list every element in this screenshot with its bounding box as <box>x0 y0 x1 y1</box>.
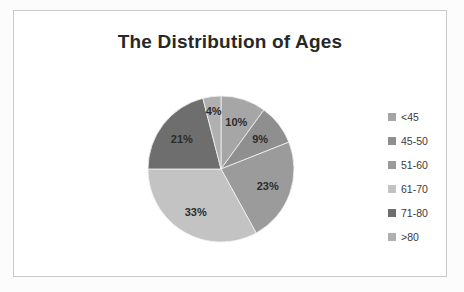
pie-chart-svg: 10%9%23%33%21%4% <box>135 83 307 255</box>
pie-chart-plot-area[interactable]: 10%9%23%33%21%4% <box>135 83 307 255</box>
legend-item-label: 51-60 <box>401 159 428 171</box>
pie-slice-label: 9% <box>252 133 268 145</box>
chart-frame[interactable]: The Distribution of Ages 10%9%23%33%21%4… <box>13 10 447 277</box>
legend-item-label: 61-70 <box>401 183 428 195</box>
legend-item[interactable]: 45-50 <box>388 129 464 153</box>
chart-title: The Distribution of Ages <box>14 31 446 53</box>
pie-slice-label: 23% <box>257 180 279 192</box>
legend-item[interactable]: 71-80 <box>388 201 464 225</box>
legend-color-swatch-icon <box>388 185 396 193</box>
legend-color-swatch-icon <box>388 209 396 217</box>
legend-item-label: <45 <box>401 111 419 123</box>
legend-item-label: 45-50 <box>401 135 428 147</box>
pie-slice-group <box>148 96 294 242</box>
legend-item[interactable]: <45 <box>388 105 464 129</box>
chart-legend: <4545-5051-6061-7071-80>80 <box>388 105 464 249</box>
legend-item-label: >80 <box>401 231 419 243</box>
pie-slice-label: 33% <box>185 206 207 218</box>
pie-slice-label: 21% <box>171 133 193 145</box>
legend-item[interactable]: 61-70 <box>388 177 464 201</box>
legend-color-swatch-icon <box>388 113 396 121</box>
legend-item[interactable]: >80 <box>388 225 464 249</box>
legend-color-swatch-icon <box>388 233 396 241</box>
legend-item[interactable]: 51-60 <box>388 153 464 177</box>
screenshot-root: The Distribution of Ages 10%9%23%33%21%4… <box>0 0 464 292</box>
legend-item-label: 71-80 <box>401 207 428 219</box>
legend-color-swatch-icon <box>388 161 396 169</box>
pie-slice-label: 4% <box>206 105 222 117</box>
pie-slice-label: 10% <box>225 116 247 128</box>
legend-color-swatch-icon <box>388 137 396 145</box>
